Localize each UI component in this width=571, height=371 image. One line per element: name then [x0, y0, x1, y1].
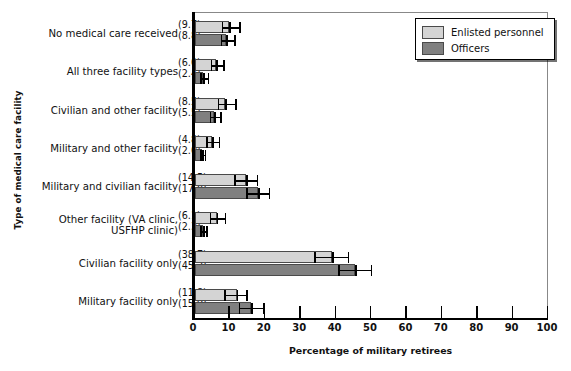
x-tick-label-40: 40 [320, 322, 350, 333]
category-label-column: No medical care receivedAll three facili… [0, 0, 178, 330]
error-bar-enl-1 [211, 60, 225, 71]
x-tick-0 [193, 306, 194, 318]
legend-swatch-enlisted [422, 26, 444, 39]
bar-enl-6 [195, 251, 332, 263]
error-bar-off-5 [200, 226, 207, 237]
error-bar-enl-2 [218, 99, 237, 110]
bar-off-6 [195, 264, 355, 276]
x-tick-100 [547, 306, 548, 318]
category-label-0: No medical care received [48, 28, 178, 40]
x-tick-30 [299, 306, 300, 318]
category-label-2: Civilian and other facility [51, 105, 178, 117]
x-tick-60 [405, 306, 406, 318]
chart-figure: Type of medical care facility No medical… [0, 0, 571, 371]
x-tick-80 [476, 306, 477, 318]
x-tick-label-70: 70 [426, 322, 456, 333]
x-tick-label-10: 10 [213, 322, 243, 333]
category-label-3: Military and other facility [50, 143, 178, 155]
x-tick-50 [370, 306, 371, 318]
x-tick-label-100: 100 [532, 322, 562, 333]
chart-legend: Enlisted personnel Officers [415, 18, 555, 60]
x-tick-40 [335, 306, 336, 318]
category-label-5: Other facility (VA clinic, USFHP clinic) [59, 214, 178, 237]
error-bar-enl-0 [222, 22, 241, 33]
error-bar-off-3 [200, 150, 206, 161]
category-label-6: Civilian facility only [79, 258, 178, 270]
error-bar-off-0 [221, 35, 236, 46]
x-tick-label-80: 80 [461, 322, 491, 333]
error-bar-enl-4 [234, 175, 258, 186]
error-bar-enl-7 [224, 290, 248, 301]
error-bar-enl-3 [206, 137, 220, 148]
x-tick-label-50: 50 [355, 322, 385, 333]
x-tick-label-60: 60 [390, 322, 420, 333]
legend-swatch-officers [422, 42, 444, 55]
x-axis-line [192, 318, 548, 320]
error-bar-enl-6 [314, 252, 349, 263]
x-axis-title: Percentage of military retirees [193, 345, 548, 356]
legend-item-enlisted: Enlisted personnel [422, 24, 548, 40]
x-tick-label-30: 30 [284, 322, 314, 333]
value-label-column: (9.7)(8.8)(6.0)(2.4)(8.5)(5.5)(4.8)(2.0)… [178, 0, 193, 330]
error-bar-off-4 [246, 188, 270, 199]
error-bar-off-7 [239, 303, 265, 314]
error-bar-off-1 [200, 73, 209, 84]
legend-item-officers: Officers [422, 40, 548, 56]
legend-label-enlisted: Enlisted personnel [451, 27, 544, 38]
category-label-4: Military and civilian facility [42, 181, 178, 193]
x-tick-label-20: 20 [249, 322, 279, 333]
x-tick-90 [512, 306, 513, 318]
category-label-7: Military facility only [78, 296, 178, 308]
x-tick-label-90: 90 [497, 322, 527, 333]
x-tick-label-0: 0 [178, 322, 208, 333]
error-bar-off-2 [210, 112, 222, 123]
x-tick-70 [441, 306, 442, 318]
error-bar-off-6 [338, 265, 372, 276]
category-label-1: All three facility types [67, 66, 178, 78]
legend-label-officers: Officers [451, 43, 490, 54]
x-tick-20 [264, 306, 265, 318]
error-bar-enl-5 [210, 213, 227, 224]
x-tick-10 [228, 306, 229, 318]
